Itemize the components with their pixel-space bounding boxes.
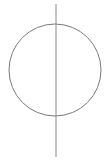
drawing-canvas — [0, 0, 109, 162]
circle-with-vertical-axis-figure — [0, 0, 109, 162]
